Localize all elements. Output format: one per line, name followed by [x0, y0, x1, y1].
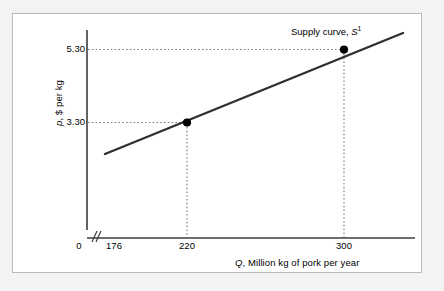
figure-root: p, $ per kg 5.30 3.30 0 176 220 300 Q, M… [0, 0, 444, 291]
data-point-marker-220 [183, 118, 191, 126]
plot-area [13, 14, 423, 274]
data-point-marker-300 [340, 46, 348, 54]
supply-curve-line [105, 33, 403, 154]
figure-panel: p, $ per kg 5.30 3.30 0 176 220 300 Q, M… [12, 13, 422, 273]
